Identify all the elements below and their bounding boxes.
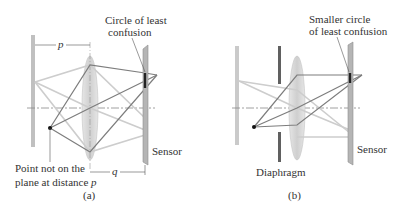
panel-a: p q Circle of least confusion Sensor Poi… xyxy=(15,14,182,202)
sensor xyxy=(143,45,148,165)
q-label: q xyxy=(112,165,118,177)
sensor-label-a: Sensor xyxy=(152,145,182,157)
caption-a: (a) xyxy=(83,189,96,202)
diaphragm-top xyxy=(278,46,281,84)
sensor-label-b: Sensor xyxy=(357,143,387,155)
point-label-line1: Point not on the xyxy=(15,162,85,174)
diaphragm-bottom xyxy=(278,132,281,162)
object-plane xyxy=(31,35,35,147)
caption-b: (b) xyxy=(288,189,301,202)
diaphragm-label: Diaphragm xyxy=(256,166,306,178)
circle-leader-line xyxy=(337,37,349,72)
sensor xyxy=(348,42,353,165)
circle-label-line2: confusion xyxy=(108,26,152,38)
object-point xyxy=(252,125,256,129)
p-label: p xyxy=(57,38,64,50)
smaller-circle-label-line2: of least confusion xyxy=(309,25,388,37)
panel-b: Smaller circle of least confusion Sensor… xyxy=(232,13,388,202)
point-label-line2: plane at distance p xyxy=(15,176,97,188)
circle-label-line1: Circle of least xyxy=(105,14,167,26)
object-plane xyxy=(235,46,239,145)
smaller-circle-label-line1: Smaller circle xyxy=(309,13,371,25)
dark-rays xyxy=(254,75,362,127)
optics-diagram: p q Circle of least confusion Sensor Poi… xyxy=(0,0,399,215)
diagram-canvas: p q Circle of least confusion Sensor Poi… xyxy=(0,0,399,215)
